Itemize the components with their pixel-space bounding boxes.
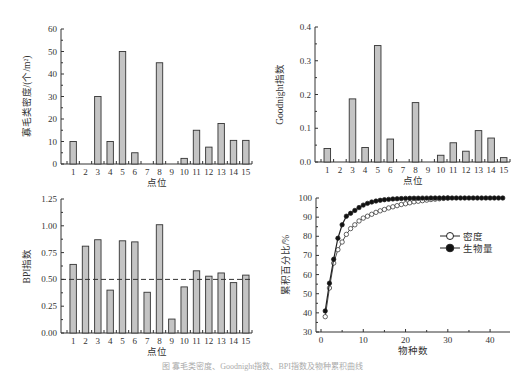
data-point [344, 232, 348, 236]
x-tick-label: 4 [108, 336, 113, 346]
data-point [424, 196, 428, 200]
bar [243, 275, 249, 333]
x-tick-label: 14 [229, 167, 239, 177]
y-tick-label: 70 [303, 250, 313, 260]
x-tick-label: 4 [108, 167, 113, 177]
data-point [327, 281, 331, 285]
bar [362, 147, 369, 162]
y-tick-label: 0.75 [41, 248, 57, 258]
chart-figure: 0102030405060寡毛类密度/(个/m²)123456789101112… [0, 0, 525, 374]
data-point [348, 226, 352, 230]
bar [95, 240, 101, 333]
bar [144, 292, 150, 333]
y-tick-label: 0.00 [41, 328, 57, 338]
y-tick-label: 50 [303, 289, 313, 299]
x-axis-label: 点位 [147, 177, 167, 188]
y-tick-label: 30 [303, 327, 313, 337]
x-tick-label: 8 [413, 165, 418, 175]
data-point [395, 203, 399, 207]
data-point [463, 196, 467, 200]
y-tick-label: 0.0 [300, 157, 312, 167]
data-point [353, 208, 357, 212]
bar [437, 155, 444, 162]
y-tick-label: 100 [299, 193, 313, 203]
data-point [374, 199, 378, 203]
y-axis-label: 累积百分比/% [280, 235, 291, 296]
y-tick-label: 60 [303, 270, 313, 280]
data-point [336, 236, 340, 240]
bar [475, 131, 482, 162]
x-tick-label: 10 [180, 336, 190, 346]
data-point [340, 240, 344, 244]
y-tick-label: 0.1 [300, 123, 311, 133]
bar [181, 287, 187, 333]
data-point [454, 196, 458, 200]
y-tick-label: 40 [48, 69, 58, 79]
bar [412, 103, 419, 162]
x-tick-label: 15 [499, 165, 509, 175]
bar [132, 153, 138, 164]
x-tick-label: 6 [133, 336, 138, 346]
data-point [484, 196, 488, 200]
x-tick-label: 20 [401, 335, 411, 345]
x-tick-label: 6 [388, 165, 393, 175]
x-tick-label: 6 [133, 167, 138, 177]
data-point [365, 214, 369, 218]
data-point [365, 201, 369, 205]
x-tick-label: 14 [487, 165, 497, 175]
chart-density: 0102030405060寡毛类密度/(个/m²)123456789101112… [21, 24, 252, 188]
x-tick-label: 2 [83, 167, 88, 177]
bar [463, 151, 470, 162]
y-tick-label: 20 [48, 114, 58, 124]
x-tick-label: 10 [180, 167, 190, 177]
x-tick-label: 9 [426, 165, 431, 175]
data-point [391, 205, 395, 209]
x-tick-label: 5 [375, 165, 380, 175]
x-tick-label: 13 [474, 165, 484, 175]
y-tick-label: 0 [53, 159, 58, 169]
data-point [433, 196, 437, 200]
data-point [353, 223, 357, 227]
bar [132, 242, 138, 333]
data-point [344, 214, 348, 218]
filled-circle-icon [446, 244, 454, 252]
data-point [386, 206, 390, 210]
x-tick-label: 30 [443, 335, 453, 345]
data-point [408, 196, 412, 200]
bar [206, 147, 212, 164]
data-point [382, 198, 386, 202]
bar [156, 225, 162, 333]
bar [119, 241, 125, 333]
x-axis-label: 点位 [403, 175, 423, 186]
bar [218, 124, 224, 165]
data-point [370, 212, 374, 216]
data-point [446, 196, 450, 200]
data-point [467, 196, 471, 200]
x-tick-label: 9 [170, 336, 175, 346]
x-tick-label: 1 [325, 165, 330, 175]
bar [193, 130, 199, 164]
data-point [412, 196, 416, 200]
y-tick-label: 0.2 [300, 90, 311, 100]
data-point [391, 197, 395, 201]
x-tick-label: 4 [363, 165, 368, 175]
x-tick-label: 10 [436, 165, 446, 175]
y-tick-label: 30 [48, 92, 58, 102]
bar [156, 63, 162, 164]
y-axis-label: 寡毛类密度/(个/m²) [21, 56, 33, 138]
y-tick-label: 60 [48, 24, 58, 34]
data-point [378, 209, 382, 213]
bar [82, 246, 88, 333]
data-point [323, 314, 327, 318]
bar [119, 52, 125, 165]
x-tick-label: 3 [350, 165, 355, 175]
bar [95, 97, 101, 165]
data-point [370, 200, 374, 204]
data-point [357, 219, 361, 223]
x-tick-label: 3 [96, 167, 101, 177]
data-point [361, 216, 365, 220]
data-point [450, 196, 454, 200]
bar [324, 149, 331, 163]
x-tick-label: 8 [157, 336, 162, 346]
x-tick-label: 15 [241, 167, 251, 177]
